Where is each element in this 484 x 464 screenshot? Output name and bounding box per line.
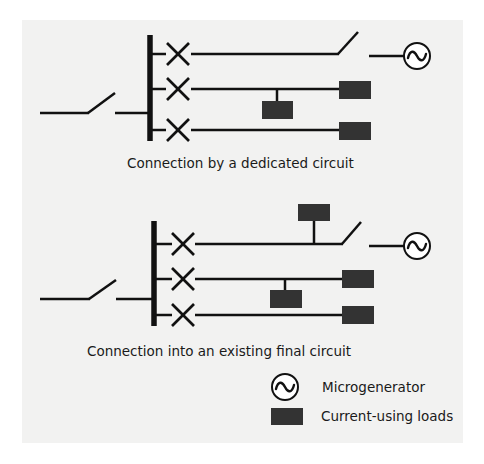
load-icon — [339, 122, 371, 140]
caption-dedicated: Connection by a dedicated circuit — [127, 155, 354, 171]
diagram-dedicated-circuit: Connection by a dedicated circuit — [40, 32, 430, 171]
diagram-existing-circuit: Connection into an existing final circui… — [40, 204, 430, 359]
microgenerator-icon — [272, 374, 298, 400]
circuit-2 — [154, 268, 374, 308]
circuit-2 — [150, 78, 371, 119]
wiring-diagrams: Connection by a dedicated circuit — [0, 0, 484, 464]
supply-isolator-switch — [40, 93, 150, 113]
circuit-breaker-icon — [167, 78, 189, 100]
legend: Microgenerator Current-using loads — [271, 374, 453, 425]
microgenerator-icon — [404, 233, 430, 259]
load-icon — [342, 270, 374, 288]
load-icon — [339, 81, 371, 99]
isolator-switch — [342, 222, 361, 244]
legend-label: Microgenerator — [322, 379, 425, 395]
circuit-breaker-icon — [172, 233, 194, 255]
circuit-1 — [154, 204, 430, 259]
load-icon — [271, 408, 303, 425]
microgenerator-icon — [404, 43, 430, 69]
circuit-3 — [150, 119, 371, 141]
circuit-1 — [150, 32, 430, 69]
load-icon — [298, 204, 330, 221]
circuit-breaker-icon — [167, 43, 189, 65]
caption-existing: Connection into an existing final circui… — [87, 343, 351, 359]
supply-isolator-switch — [40, 280, 154, 299]
legend-item-loads: Current-using loads — [271, 408, 453, 425]
load-icon — [342, 306, 374, 324]
load-icon — [270, 290, 302, 308]
load-icon — [262, 101, 293, 119]
circuit-3 — [154, 304, 374, 326]
circuit-breaker-icon — [167, 119, 189, 141]
circuit-breaker-icon — [172, 304, 194, 326]
circuit-breaker-icon — [172, 268, 194, 290]
isolator-switch — [338, 32, 358, 54]
legend-label: Current-using loads — [321, 408, 453, 424]
legend-item-microgenerator: Microgenerator — [272, 374, 425, 400]
